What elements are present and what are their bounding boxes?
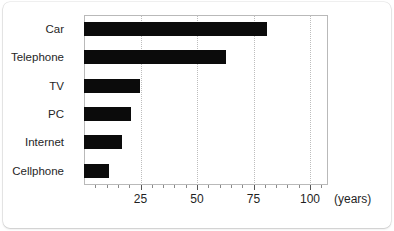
minor-tick-45	[186, 185, 187, 188]
category-label: Car	[45, 23, 64, 35]
major-tick-50	[197, 185, 198, 190]
minor-tick-5	[95, 185, 96, 188]
plot-frame	[84, 15, 328, 185]
minor-tick-40	[174, 185, 175, 188]
bar	[84, 22, 267, 36]
minor-tick-15	[118, 185, 119, 188]
minor-tick-95	[299, 185, 300, 188]
category-label: Cellphone	[12, 165, 64, 177]
bar-chart: CarTelephoneTVPCInternetCellphone 255075…	[0, 0, 394, 230]
gridline-25	[141, 15, 142, 185]
minor-tick-10	[107, 185, 108, 188]
category-label: Internet	[25, 136, 64, 148]
major-tick-75	[254, 185, 255, 190]
category-label: Telephone	[11, 51, 64, 63]
x-tick-label: 50	[190, 192, 203, 206]
x-tick-label: 100	[300, 192, 320, 206]
bar	[84, 79, 140, 93]
gridline-100	[310, 15, 311, 185]
minor-tick-60	[220, 185, 221, 188]
bar	[84, 107, 131, 121]
minor-tick-105	[321, 185, 322, 188]
x-axis-unit-label: (years)	[334, 192, 371, 206]
minor-tick-55	[208, 185, 209, 188]
bar	[84, 135, 122, 149]
bar	[84, 50, 226, 64]
minor-tick-90	[287, 185, 288, 188]
minor-tick-35	[163, 185, 164, 188]
minor-tick-65	[231, 185, 232, 188]
minor-tick-85	[276, 185, 277, 188]
x-tick-label: 75	[247, 192, 260, 206]
major-tick-100	[310, 185, 311, 190]
gridline-50	[197, 15, 198, 185]
gridline-75	[254, 15, 255, 185]
x-tick-label: 25	[134, 192, 147, 206]
bar	[84, 164, 109, 178]
minor-tick-20	[129, 185, 130, 188]
category-label: PC	[48, 108, 64, 120]
minor-tick-70	[242, 185, 243, 188]
minor-tick-80	[265, 185, 266, 188]
major-tick-25	[141, 185, 142, 190]
minor-tick-30	[152, 185, 153, 188]
category-label: TV	[49, 80, 64, 92]
